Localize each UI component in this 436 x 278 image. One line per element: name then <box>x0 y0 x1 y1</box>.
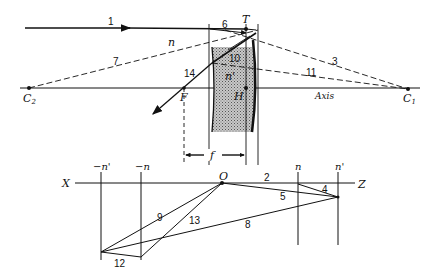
line-label-13: 13 <box>189 215 201 226</box>
line-8 <box>101 197 338 252</box>
medium-label-n-prime: n' <box>225 70 235 83</box>
ray-label-6: 6 <box>222 19 228 30</box>
ray-label-10: 10 <box>229 53 241 64</box>
line-13 <box>141 183 222 257</box>
point-F <box>182 86 186 90</box>
origin-label-O: O <box>219 170 228 183</box>
vertical-label-n: n <box>295 161 301 172</box>
line-label-8: 8 <box>245 219 251 230</box>
line-label-12: 12 <box>114 258 126 269</box>
point-label-F: F <box>179 91 188 104</box>
axis-label-X: X <box>61 177 71 190</box>
line-label-4: 4 <box>322 184 328 195</box>
axis-label: Axis <box>314 91 334 101</box>
diagram-canvas: f 1 n 7 14 6 T 10 n' H F 3 11 Axis C2 C1… <box>0 0 436 278</box>
point-label-T: T <box>242 13 251 26</box>
line-label-9: 9 <box>157 212 163 223</box>
ray-1-cont <box>128 28 246 29</box>
point-C2 <box>27 86 31 90</box>
vertical-label-neg-n-prime: −n' <box>93 161 111 172</box>
medium-label-n: n <box>168 36 175 49</box>
line-label-5: 5 <box>280 191 286 202</box>
point-label-C2: C2 <box>23 92 36 106</box>
point-C1 <box>406 87 410 91</box>
ray-label-1: 1 <box>108 16 114 27</box>
line-label-2: 2 <box>264 172 270 183</box>
vertical-label-neg-n: −n <box>135 161 150 172</box>
ray-label-11: 11 <box>306 67 317 78</box>
ray-label-14: 14 <box>184 68 196 79</box>
point-n-prime-intersect <box>337 196 340 199</box>
lens-ray-diagram: f 1 n 7 14 6 T 10 n' H F 3 11 Axis C2 C1… <box>0 0 436 278</box>
ray-label-3: 3 <box>332 56 338 67</box>
point-label-C1: C1 <box>403 92 416 106</box>
axis-label-Z: Z <box>357 178 366 191</box>
vertical-label-n-prime: n' <box>335 161 344 172</box>
point-H <box>244 86 248 90</box>
point-T <box>244 27 248 31</box>
line-12 <box>101 252 141 257</box>
point-label-H: H <box>233 90 244 103</box>
ray-label-7: 7 <box>113 56 119 67</box>
